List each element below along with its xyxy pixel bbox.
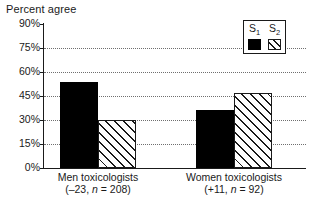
legend-entry-s2: S2 [268,23,281,50]
chart-title: Percent agree [6,3,76,16]
bar-chart: Percent agree 0%15%30%45%60%75%90% Men t… [0,0,314,204]
y-axis-tick-mark [40,120,44,121]
bar-men-s2 [98,120,136,168]
x-axis-line [43,168,306,169]
legend-swatch-s1 [248,39,261,50]
legend-label-s1: S1 [249,23,260,38]
bar-men-s1 [60,82,98,168]
group-label-men: Men toxicologists(–23, n = 208) [28,171,168,195]
group-label-women: Women toxicologists(+11, n = 92) [164,171,304,195]
legend-label-s2: S2 [269,23,280,38]
gridline [44,72,306,73]
y-axis-tick-label: 30% [0,114,40,125]
legend-entry-s1: S1 [248,23,261,50]
bar-women-s1 [196,110,234,168]
y-axis-tick-mark [40,144,44,145]
legend-swatch-s2 [268,39,281,50]
y-axis-tick-mark [40,24,44,25]
y-axis-tick-label: 90% [0,18,40,29]
y-axis-tick-label: 60% [0,66,40,77]
y-axis-tick-label: 75% [0,42,40,53]
y-axis-tick-mark [40,168,44,169]
y-axis-tick-label: 15% [0,138,40,149]
group-label-stats: (+11, n = 92) [164,183,304,195]
group-label-name: Women toxicologists [164,171,304,183]
group-label-name: Men toxicologists [28,171,168,183]
chart-legend: S1S2 [243,20,286,54]
y-axis-tick-mark [40,72,44,73]
bar-women-s2 [234,93,272,168]
y-axis-tick-label: 45% [0,90,40,101]
y-axis-tick-mark [40,96,44,97]
y-axis-tick-mark [40,48,44,49]
group-label-stats: (–23, n = 208) [28,183,168,195]
